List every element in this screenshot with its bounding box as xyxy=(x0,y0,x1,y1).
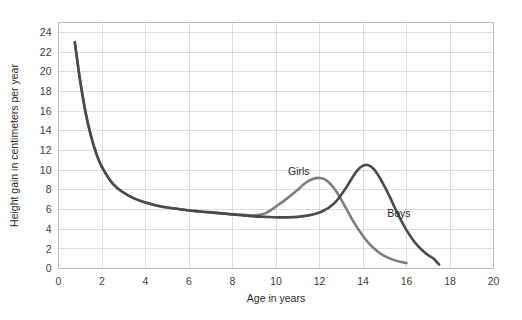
x-tick-label: 2 xyxy=(99,275,105,287)
x-tick-label: 10 xyxy=(270,275,282,287)
x-tick-label: 4 xyxy=(143,275,149,287)
y-tick-label: 0 xyxy=(46,262,52,274)
series-line-boys xyxy=(75,42,439,264)
x-axis-tick-labels: 02468101214161820 xyxy=(56,275,500,287)
x-tick-label: 18 xyxy=(444,275,456,287)
y-tick-label: 8 xyxy=(46,183,52,195)
y-tick-label: 18 xyxy=(40,85,52,97)
series-annotations: GirlsBoys xyxy=(288,165,411,220)
grid-lines xyxy=(59,23,494,269)
y-tick-label: 12 xyxy=(40,144,52,156)
chart-page: 02468101214161820 024681012141618202224 … xyxy=(0,0,522,320)
y-tick-label: 20 xyxy=(40,65,52,77)
y-axis-title: Height gain in centimeters per year xyxy=(8,64,20,227)
y-tick-label: 16 xyxy=(40,105,52,117)
y-tick-label: 22 xyxy=(40,46,52,58)
growth-velocity-chart: 02468101214161820 024681012141618202224 … xyxy=(0,0,522,320)
y-tick-label: 4 xyxy=(46,223,52,235)
x-tick-label: 20 xyxy=(488,275,500,287)
chart-svg: 02468101214161820 024681012141618202224 … xyxy=(0,0,522,320)
x-tick-label: 16 xyxy=(401,275,413,287)
y-tick-label: 24 xyxy=(40,26,52,38)
x-tick-label: 14 xyxy=(357,275,369,287)
y-axis-tick-labels: 024681012141618202224 xyxy=(40,26,52,274)
y-tick-label: 10 xyxy=(40,164,52,176)
x-tick-label: 0 xyxy=(56,275,62,287)
series-line-girls xyxy=(75,42,407,263)
series-label-girls: Girls xyxy=(288,165,310,177)
x-axis-title: Age in years xyxy=(247,292,305,304)
series-lines xyxy=(75,42,439,264)
series-label-boys: Boys xyxy=(387,207,410,219)
y-tick-label: 2 xyxy=(46,243,52,255)
x-tick-label: 6 xyxy=(186,275,192,287)
y-tick-label: 6 xyxy=(46,203,52,215)
y-tick-label: 14 xyxy=(40,124,52,136)
x-tick-label: 8 xyxy=(230,275,236,287)
x-tick-label: 12 xyxy=(314,275,326,287)
